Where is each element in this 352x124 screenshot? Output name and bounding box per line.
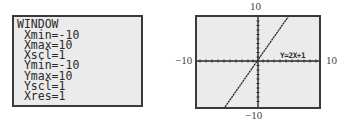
equation-label: Y=2X+1 — [280, 51, 305, 60]
window-settings-screen: WINDOW Xmin=-10 Xmax=10 Xscl=1 Ymin=-10 … — [12, 15, 143, 107]
y-min-label: −10 — [245, 109, 262, 121]
setting-xres: Xres=1 — [17, 91, 65, 101]
x-min-label: −10 — [175, 54, 192, 66]
x-max-label: 10 — [326, 54, 337, 66]
y-max-label: 10 — [250, 0, 261, 12]
graph-screen: Y=2X+1 — [195, 15, 321, 109]
graph-plot — [197, 17, 319, 107]
